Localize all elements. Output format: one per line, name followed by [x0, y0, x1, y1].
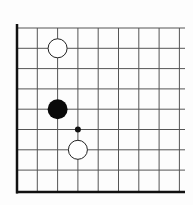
white-stone: [68, 140, 87, 159]
point-marker-dot: [75, 127, 81, 133]
markers-layer: [75, 127, 81, 133]
black-stone: [48, 99, 68, 119]
go-board-diagram: [0, 0, 193, 205]
stones-layer: [48, 39, 88, 160]
board-grid: [17, 28, 185, 192]
white-stone: [48, 39, 67, 58]
